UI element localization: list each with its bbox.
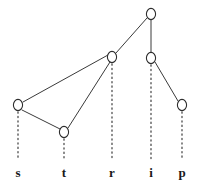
leaf-label: i <box>142 166 160 180</box>
tree-edge <box>116 18 147 53</box>
edge-layer <box>22 18 178 129</box>
leaf-label: t <box>55 166 73 180</box>
tree-node[interactable] <box>177 99 186 110</box>
tree-node[interactable] <box>146 8 155 19</box>
tree-node[interactable] <box>146 52 155 63</box>
leaf-label: p <box>173 166 191 180</box>
tree-edge <box>23 55 108 102</box>
tree-graph <box>0 0 212 186</box>
tree-edge <box>155 62 178 101</box>
tree-node[interactable] <box>59 126 68 137</box>
leaf-label: s <box>9 166 27 180</box>
tree-edge <box>22 110 60 129</box>
leaf-label: r <box>103 166 121 180</box>
tree-edge <box>68 62 110 128</box>
tree-node[interactable] <box>13 99 22 110</box>
tree-node[interactable] <box>107 51 116 62</box>
diagram-canvas: strip <box>0 0 212 186</box>
